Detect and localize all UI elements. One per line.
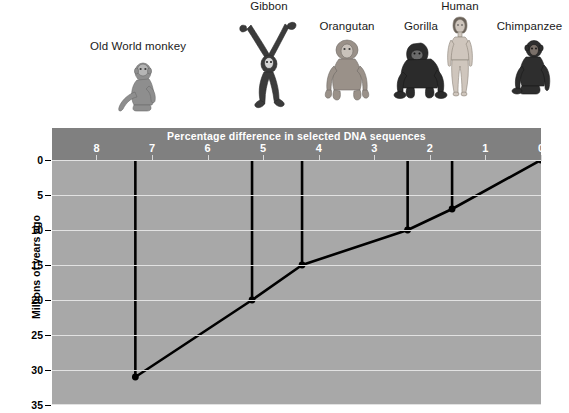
yaxis-tick-mark (45, 265, 51, 266)
plot-svg (52, 160, 541, 405)
series-line (135, 160, 541, 377)
organism-old-world-monkey: Old World monkey (80, 40, 196, 114)
human-icon (445, 14, 475, 98)
yaxis-tick-mark (45, 370, 51, 371)
yaxis-tick-mark (45, 405, 51, 406)
old-world-monkey-icon (107, 56, 169, 114)
organism-label: Orangutan (306, 20, 388, 32)
organism-strip: Old World monkey (0, 0, 569, 128)
gridline (52, 195, 541, 196)
organism-label: Gibbon (226, 0, 312, 12)
gridline (52, 230, 541, 231)
yaxis-tick-label: 0 (37, 154, 43, 166)
organism-chimpanzee: Chimpanzee (490, 20, 569, 98)
chimpanzee-icon (506, 36, 554, 98)
gridline (52, 404, 541, 405)
organism-label: Chimpanzee (490, 20, 569, 32)
yaxis: 05101520253035 (0, 128, 52, 405)
xaxis-band: Percentage difference in selected DNA se… (52, 128, 541, 160)
organism-label: Old World monkey (80, 40, 196, 52)
yaxis-tick-label: 30 (31, 364, 43, 376)
gridline (52, 300, 541, 301)
xaxis-tick-label: 1 (482, 142, 488, 154)
yaxis-tick-mark (45, 230, 51, 231)
yaxis-tick-mark (45, 160, 51, 161)
yaxis-tick-label: 10 (31, 224, 43, 236)
yaxis-tick-label: 35 (31, 399, 43, 411)
data-point (132, 374, 139, 381)
orangutan-icon (321, 36, 373, 104)
gibbon-icon (236, 14, 302, 110)
yaxis-tick-mark (45, 300, 51, 301)
yaxis-tick-label: 20 (31, 294, 43, 306)
xaxis-tick-label: 4 (316, 142, 322, 154)
xaxis-tick-label: 6 (205, 142, 211, 154)
organism-gibbon: Gibbon (226, 0, 312, 110)
organism-label: Human (412, 0, 508, 12)
gridline (52, 370, 541, 371)
xaxis-tick-label: 5 (260, 142, 266, 154)
yaxis-tick-mark (45, 335, 51, 336)
xaxis-tick-mark (541, 155, 542, 161)
gridline (52, 160, 541, 161)
gridline (52, 265, 541, 266)
xaxis-tick-label: 8 (93, 142, 99, 154)
figure-root: Old World monkey (0, 0, 569, 413)
yaxis-tick-label: 25 (31, 329, 43, 341)
gridline (52, 335, 541, 336)
yaxis-tick-label: 5 (37, 189, 43, 201)
xaxis-title: Percentage difference in selected DNA se… (52, 130, 541, 142)
data-point (449, 206, 456, 213)
plot-area (52, 160, 541, 405)
xaxis-tick-label: 0 (538, 142, 544, 154)
xaxis-tick-label: 3 (371, 142, 377, 154)
chart: Percentage difference in selected DNA se… (52, 128, 541, 405)
xaxis-tick-label: 2 (427, 142, 433, 154)
organism-orangutan: Orangutan (306, 20, 388, 104)
yaxis-tick-mark (45, 195, 51, 196)
xaxis-tick-label: 7 (149, 142, 155, 154)
yaxis-tick-label: 15 (31, 259, 43, 271)
